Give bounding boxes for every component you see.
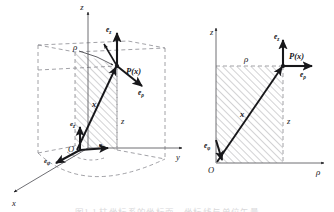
left-panel: z y x O ρ P(x) x z ez eρ ez eρ eφ [11, 2, 182, 208]
right-panel: z ρ O ρ P(x) x z ez eρ eφ [204, 27, 324, 177]
left-position-vector-label: x [91, 99, 97, 109]
cylinder-base-arc [38, 153, 165, 177]
left-origin-label: O [68, 144, 74, 154]
left-z-axis-label: z [79, 2, 84, 12]
left-x-axis [14, 148, 88, 192]
box-bottom-right-guide [117, 150, 165, 159]
right-origin-label: O [208, 165, 214, 175]
left-height-label: z [120, 116, 125, 126]
left-rho-label: ρ [72, 42, 78, 52]
left-point-marker [115, 64, 119, 68]
cylindrical-coordinates-figure: z y x O ρ P(x) x z ez eρ ez eρ eφ [0, 0, 334, 212]
right-rho-label: ρ [243, 54, 249, 64]
left-e-rho-at-point-label: eρ [138, 88, 144, 98]
right-rho-axis-label: ρ [315, 167, 321, 177]
right-point-label: P(x) [289, 51, 304, 61]
left-x-axis-label: x [11, 198, 16, 208]
right-height-label: z [286, 116, 291, 126]
right-point-marker [281, 64, 285, 68]
right-position-vector-label: x [239, 109, 245, 119]
left-e-phi-at-origin-label: eφ [44, 157, 50, 166]
right-z-axis-label: z [209, 27, 214, 37]
right-e-rho-at-point-label: eρ [300, 70, 306, 80]
figure-canvas: z y x O ρ P(x) x z ez eρ ez eρ eφ [0, 0, 334, 212]
left-point-label: P(x) [126, 66, 141, 76]
right-e-z-at-point-label: ez [274, 32, 279, 42]
left-origin-marker [79, 149, 82, 152]
box-top-face [38, 41, 165, 52]
left-e-z-at-point-label: ez [106, 25, 111, 35]
left-y-axis-label: y [175, 152, 180, 162]
right-e-phi-at-origin-label: eφ [204, 141, 210, 151]
left-e-z-at-origin-label: ez [70, 120, 75, 129]
